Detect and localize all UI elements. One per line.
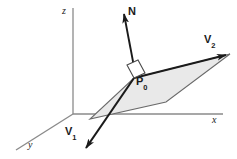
y-axis-label: y (28, 140, 32, 150)
plane-parallelogram (90, 54, 230, 119)
v2-vector-label-subscript: 2 (211, 41, 215, 50)
v1-vector-label-subscript: 1 (72, 133, 76, 142)
normal-vector-label: N (128, 6, 136, 17)
plane-fill (90, 54, 230, 119)
base-point-label: P0 (136, 76, 148, 90)
v2-vector-label: V2 (204, 34, 216, 48)
v1-vector-label: V1 (65, 126, 77, 140)
normal-vector-label-text: N (128, 5, 136, 17)
base-point-label-subscript: 0 (143, 83, 147, 92)
z-axis-label: z (62, 6, 66, 16)
v1-vector-arrow (86, 78, 134, 148)
x-axis-label: x (212, 115, 216, 125)
diagram-canvas (0, 0, 237, 159)
vector-plane-diagram: z x y N V1 V2 P0 (0, 0, 237, 159)
